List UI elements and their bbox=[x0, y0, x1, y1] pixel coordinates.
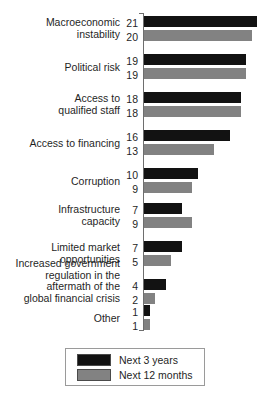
bar-group: Macroeconomic instability 21 20 bbox=[0, 16, 268, 47]
category-label: Other bbox=[94, 313, 120, 325]
bar-next-12-months bbox=[144, 255, 171, 266]
value-label: 10 bbox=[120, 170, 138, 181]
value-label: 13 bbox=[120, 146, 138, 157]
value-label: 21 bbox=[120, 18, 138, 29]
value-label: 7 bbox=[120, 243, 138, 254]
chart-container: Macroeconomic instability 21 20 Politica… bbox=[0, 0, 268, 399]
bar-next-3-years bbox=[144, 92, 241, 103]
bar-next-3-years bbox=[144, 130, 230, 141]
value-label: 9 bbox=[120, 219, 138, 230]
category-label: Increased government regulation in the a… bbox=[16, 258, 120, 304]
bar-group: Political risk 19 19 bbox=[0, 54, 268, 85]
bar-group: Access to qualified staff 18 18 bbox=[0, 92, 268, 123]
value-label: 16 bbox=[120, 132, 138, 143]
category-label: Access to financing bbox=[30, 138, 120, 150]
bar-next-12-months bbox=[144, 182, 192, 193]
value-label: 4 bbox=[120, 281, 138, 292]
plot-area: Macroeconomic instability 21 20 Politica… bbox=[0, 0, 268, 340]
value-label: 9 bbox=[120, 184, 138, 195]
value-label: 18 bbox=[120, 108, 138, 119]
bar-group: Other 1 1 bbox=[0, 305, 268, 336]
value-label: 19 bbox=[120, 70, 138, 81]
legend-item-next-3-years: Next 3 years bbox=[77, 353, 178, 367]
legend-swatch-icon bbox=[77, 369, 111, 381]
bar-next-3-years bbox=[144, 203, 182, 214]
category-label: Corruption bbox=[71, 176, 120, 188]
legend-label: Next 12 months bbox=[119, 369, 193, 381]
bar-next-3-years bbox=[144, 241, 182, 252]
value-label: 7 bbox=[120, 205, 138, 216]
bar-next-3-years bbox=[144, 54, 246, 65]
bar-next-3-years bbox=[144, 279, 166, 290]
bar-next-12-months bbox=[144, 30, 252, 41]
bar-group: Corruption 10 9 bbox=[0, 168, 268, 199]
bar-next-12-months bbox=[144, 106, 241, 117]
bar-next-12-months bbox=[144, 144, 214, 155]
chart-legend: Next 3 years Next 12 months bbox=[65, 348, 205, 386]
legend-label: Next 3 years bbox=[119, 354, 178, 366]
value-label: 5 bbox=[120, 257, 138, 268]
value-label: 18 bbox=[120, 94, 138, 105]
category-label: Political risk bbox=[65, 62, 120, 74]
bar-group: Infrastructure capacity 7 9 bbox=[0, 203, 268, 234]
value-label: 1 bbox=[120, 321, 138, 332]
category-label: Access to qualified staff bbox=[58, 93, 120, 116]
bar-next-3-years bbox=[144, 16, 257, 27]
category-label: Infrastructure capacity bbox=[58, 204, 120, 227]
axis-cap-top-icon bbox=[139, 13, 144, 14]
value-label: 20 bbox=[120, 32, 138, 43]
bar-next-3-years bbox=[144, 305, 150, 316]
value-label: 19 bbox=[120, 56, 138, 67]
legend-swatch-icon bbox=[77, 354, 111, 366]
legend-item-next-12-months: Next 12 months bbox=[77, 368, 193, 382]
bar-next-12-months bbox=[144, 293, 155, 304]
bar-next-12-months bbox=[144, 68, 246, 79]
bar-next-12-months bbox=[144, 319, 150, 330]
bar-next-12-months bbox=[144, 217, 192, 228]
category-label: Macroeconomic instability bbox=[46, 17, 120, 40]
bar-group: Access to financing 16 13 bbox=[0, 130, 268, 161]
bar-next-3-years bbox=[144, 168, 198, 179]
value-label: 1 bbox=[120, 307, 138, 318]
